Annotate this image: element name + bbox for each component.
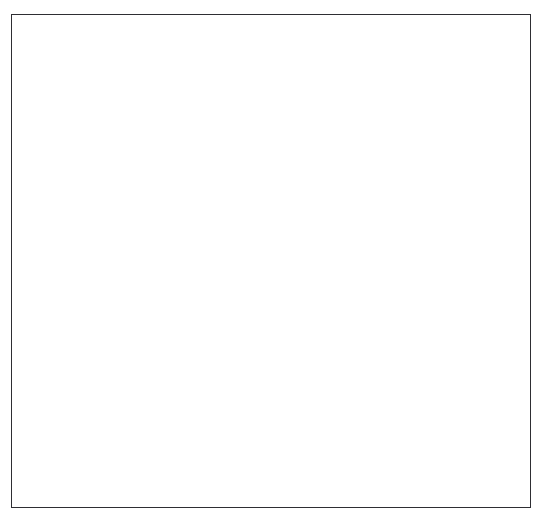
anatomical-illustration-canvas bbox=[0, 0, 541, 520]
figure-root: Flexed finger — phalanges with flexor an… bbox=[0, 0, 541, 520]
